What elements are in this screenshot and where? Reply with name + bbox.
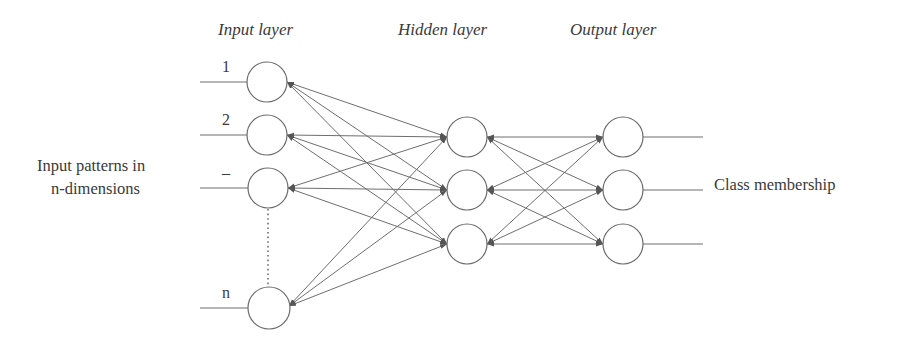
input-node-label-ellipsis: – [221,164,231,181]
hidden-node-3 [447,224,487,264]
input-layer-nodes [247,62,290,329]
input-layer-title: Input layer [217,20,293,39]
input-node-2 [247,115,287,155]
input-node-ellipsis [248,168,288,208]
hidden-layer-title: Hidden layer [397,20,488,39]
output-node-1 [603,117,643,157]
neural-network-diagram: Input layer Hidden layer Output layer In… [0,0,909,344]
input-patterns-label-line1: Input patterns in [37,156,145,175]
input-patterns-label-line2: n-dimensions [51,179,140,198]
input-node-label-n: n [222,284,230,301]
input-hidden-edges [287,82,447,306]
hidden-output-edges [487,137,603,244]
input-node-1 [247,62,287,102]
output-node-3 [603,224,643,264]
class-membership-label: Class membership [714,175,835,194]
hidden-node-2 [447,170,487,210]
output-node-2 [603,170,643,210]
output-lines [643,137,703,244]
hidden-node-1 [447,117,487,157]
output-layer-nodes [603,117,643,264]
output-layer-title: Output layer [570,20,657,39]
hidden-layer-nodes [447,117,487,264]
input-node-label-2: 2 [222,111,230,128]
input-node-label-1: 1 [222,58,230,75]
input-node-n [248,287,290,329]
